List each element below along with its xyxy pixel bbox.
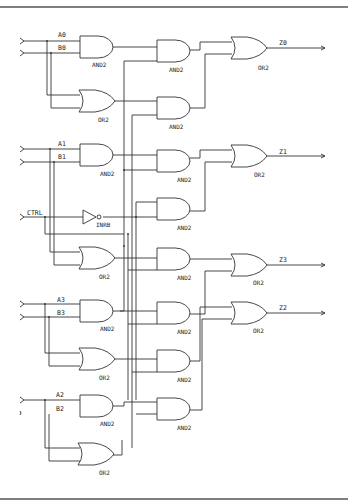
gate-label: INRB bbox=[96, 221, 111, 228]
and-gate-g3 bbox=[80, 300, 113, 322]
gate-label: AND2 bbox=[177, 424, 192, 431]
gate-label: OR2 bbox=[99, 374, 110, 381]
gate-label: AND2 bbox=[169, 66, 184, 73]
input-label-b0: B0 bbox=[58, 44, 66, 52]
gate-label: AND2 bbox=[100, 420, 115, 427]
gate-label: OR2 bbox=[98, 116, 109, 123]
gate-label: OR2 bbox=[99, 273, 110, 280]
gate-label: AND2 bbox=[177, 328, 192, 335]
gate-label: OR2 bbox=[99, 469, 110, 476]
input-label-b3: B3 bbox=[57, 309, 65, 317]
and-gate-g2 bbox=[80, 395, 113, 417]
output-label-z2: Z2 bbox=[279, 304, 287, 312]
input-label-b2: B2 bbox=[56, 405, 64, 413]
input-label-ctrl: CTRL bbox=[27, 209, 43, 217]
gate-label: AND2 bbox=[100, 325, 115, 332]
gate-label: OR2 bbox=[253, 279, 264, 286]
output-label-z0: Z0 bbox=[279, 39, 287, 47]
input-label-a0: A0 bbox=[58, 31, 66, 39]
input-label-a3: A3 bbox=[57, 296, 65, 304]
or-gate-z0 bbox=[231, 37, 267, 59]
and-gate-c2-7 bbox=[157, 398, 190, 420]
gate-label: OR2 bbox=[254, 171, 265, 178]
and-gate-c2-2 bbox=[157, 150, 190, 172]
logic-schematic: A0 B0 A1 B1 CTRL A3 B3 A2 B2 bbox=[0, 0, 348, 501]
and-gate-g0 bbox=[80, 36, 113, 58]
input-label-b1: B1 bbox=[58, 153, 66, 161]
gate-label: AND2 bbox=[169, 123, 184, 130]
gate-label: AND2 bbox=[92, 61, 107, 68]
gate-label: AND2 bbox=[177, 376, 192, 383]
input-label-a2: A2 bbox=[56, 391, 64, 399]
and-gate-c2-5 bbox=[157, 302, 190, 324]
and-gate-c2-3 bbox=[157, 198, 190, 220]
output-label-z3: Z3 bbox=[279, 256, 287, 264]
or-gate-g0 bbox=[79, 90, 115, 112]
and-gate-c2-6 bbox=[157, 350, 190, 372]
gate-label: OR2 bbox=[258, 64, 269, 71]
gate-label: AND2 bbox=[100, 170, 115, 177]
or-gate-g2 bbox=[78, 443, 114, 465]
gate-label: AND2 bbox=[177, 274, 192, 281]
or-gate-z2 bbox=[231, 302, 267, 324]
gate-label: AND2 bbox=[177, 176, 192, 183]
and-gate-c2-4 bbox=[157, 248, 190, 270]
and-gate-c2-1 bbox=[157, 97, 190, 119]
or-gate-g3 bbox=[79, 348, 115, 370]
and-gate-g1 bbox=[80, 144, 113, 166]
or-gate-z3 bbox=[231, 254, 267, 276]
gate-label: AND2 bbox=[177, 224, 192, 231]
input-label-a1: A1 bbox=[58, 140, 66, 148]
gate-label: OR2 bbox=[253, 327, 264, 334]
or-gate-z1 bbox=[231, 145, 267, 167]
output-label-z1: Z1 bbox=[279, 148, 287, 156]
input-ports bbox=[20, 38, 24, 415]
and-gate-c2-0 bbox=[157, 40, 190, 62]
or-gate-g1 bbox=[79, 247, 115, 269]
